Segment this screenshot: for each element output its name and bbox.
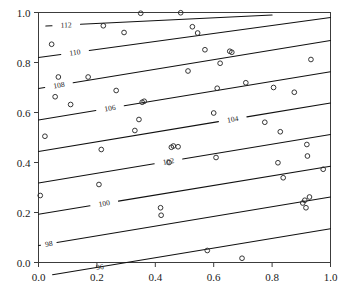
scatter-point <box>215 86 220 91</box>
scatter-point <box>214 155 219 160</box>
scatter-point <box>101 23 106 28</box>
scatter-point <box>307 195 312 200</box>
contour-label-100: 100 <box>98 198 111 209</box>
contour-line-104 <box>39 122 219 152</box>
contour-line-108 <box>73 41 330 83</box>
scatter-point <box>304 142 309 147</box>
contour-line-102 <box>39 164 155 183</box>
x-axis-tick-label: 0.8 <box>265 271 279 283</box>
scatter-point <box>304 205 309 210</box>
scatter-point <box>262 120 267 125</box>
y-axis-tick-label: 0.6 <box>2 107 31 119</box>
scatter-point <box>190 24 195 29</box>
scatter-point <box>186 69 191 74</box>
scatter-point <box>281 175 286 180</box>
contour-line-110 <box>39 54 61 57</box>
contour-label-110: 110 <box>69 47 81 57</box>
scatter-point <box>240 256 245 261</box>
scatter-point <box>158 205 163 210</box>
scatter-point <box>122 30 127 35</box>
scatter-point <box>159 213 164 218</box>
scatter-point <box>99 147 104 152</box>
plot-frame <box>39 13 331 263</box>
contour-line-100 <box>39 206 90 214</box>
scatter-point <box>68 102 73 107</box>
y-axis-tick-label: 1.0 <box>2 7 31 19</box>
y-axis-tick-label: 0.4 <box>2 157 31 169</box>
contour-line-106 <box>124 72 330 106</box>
contour-label-112: 112 <box>60 20 72 30</box>
scatter-point <box>56 75 61 80</box>
x-axis-tick-label: 1.0 <box>324 271 338 283</box>
y-axis-tick-label: 0.0 <box>2 257 31 269</box>
contour-line-96 <box>53 229 331 275</box>
contour-scatter-chart: 9698100102104106108110112 0.00.20.40.60.… <box>0 0 345 294</box>
scatter-point <box>195 31 200 36</box>
contour-line-112 <box>80 15 272 24</box>
scatter-point <box>49 42 54 47</box>
scatter-point <box>203 47 208 52</box>
contour-label-104: 104 <box>226 114 239 125</box>
y-axis-tick-label: 0.2 <box>2 207 31 219</box>
scatter-point <box>276 160 281 165</box>
scatter-point <box>292 90 297 95</box>
contour-lines: 9698100102104106108110112 <box>39 15 331 275</box>
scatter-point <box>309 57 314 62</box>
y-axis-tick-label: 0.8 <box>2 57 31 69</box>
contour-label-108: 108 <box>53 80 66 91</box>
scatter-point <box>53 94 58 99</box>
scatter-point <box>133 128 138 133</box>
x-axis-tick-label: 0.0 <box>32 271 46 283</box>
contour-line-104 <box>247 103 331 117</box>
contour-label-98: 98 <box>44 239 53 249</box>
scatter-point <box>43 134 48 139</box>
scatter-point <box>278 129 283 134</box>
contour-line-100 <box>118 166 330 201</box>
scatter-point <box>243 80 248 85</box>
scatter-point <box>86 75 91 80</box>
contour-line-108 <box>39 87 45 88</box>
scatter-point <box>211 111 216 116</box>
scatter-point <box>218 61 223 66</box>
contour-line-106 <box>39 111 96 120</box>
plot-area: 9698100102104106108110112 <box>0 0 345 294</box>
x-axis-tick-label: 0.4 <box>148 271 162 283</box>
scatter-point <box>305 154 310 159</box>
x-axis-tick-label: 0.2 <box>90 271 104 283</box>
x-axis-tick-label: 0.6 <box>207 271 221 283</box>
contour-label-106: 106 <box>104 103 117 114</box>
scatter-point <box>97 182 102 187</box>
scatter-point <box>137 117 142 122</box>
scatter-point <box>138 11 143 16</box>
scatter-point <box>271 85 276 90</box>
scatter-point <box>176 144 181 149</box>
scatter-point <box>114 88 119 93</box>
